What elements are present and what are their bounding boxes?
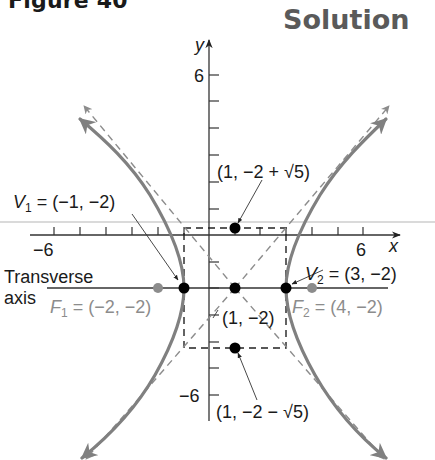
f1-label: F1 = (−2, −2)	[50, 297, 151, 320]
vertex-v1	[179, 283, 190, 294]
y-tick-neg6: −6	[179, 386, 200, 406]
hyperbola-right-branch-upper	[286, 119, 386, 288]
y-tick-6: 6	[194, 66, 204, 86]
focus-f2	[307, 283, 317, 293]
asymptote-upper-right	[235, 106, 389, 288]
focus-f1	[153, 283, 163, 293]
x-axis-label: x	[388, 236, 399, 256]
vertex-v2	[281, 283, 292, 294]
center-label: (1, −2)	[222, 308, 275, 328]
hyperbola-graph: y x 6 −6 −6 6 V1 = (−1, −2) V2 = (3, −2)…	[0, 0, 435, 460]
transverse-axis-label-line2: axis	[4, 288, 36, 308]
v1-label: V1 = (−1, −2)	[13, 192, 115, 215]
y-axis-label: y	[193, 35, 205, 55]
top-point-label: (1, −2 + √5)	[217, 162, 310, 182]
v2-label: V2 = (3, −2)	[305, 264, 397, 287]
transverse-axis-label-line1: Transverse	[4, 267, 93, 287]
bottom-point-label: (1, −2 − √5)	[216, 402, 309, 422]
f2-label: F2 = (4, −2)	[292, 297, 383, 320]
center-point	[230, 283, 241, 294]
conjugate-point-bottom	[230, 343, 241, 354]
conjugate-point-top	[230, 223, 241, 234]
y-axis	[209, 40, 219, 421]
x-tick-neg6: −6	[33, 240, 54, 260]
x-tick-6: 6	[356, 240, 366, 260]
